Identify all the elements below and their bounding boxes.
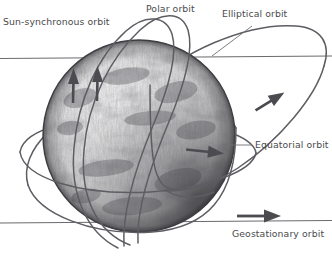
orbit-diagram: Sun-synchronous orbit Polar orbit Ellipt… xyxy=(0,0,332,257)
earth-globe xyxy=(43,40,235,232)
label-geostationary-orbit: Geostationary orbit xyxy=(232,228,324,239)
label-sun-synchronous-orbit: Sun-synchronous orbit xyxy=(3,16,110,27)
diagram-canvas: Sun-synchronous orbit Polar orbit Ellipt… xyxy=(0,0,332,257)
elliptical-arrow xyxy=(252,87,287,115)
label-elliptical-orbit: Elliptical orbit xyxy=(222,8,288,19)
label-polar-orbit: Polar orbit xyxy=(146,3,195,14)
label-equatorial-orbit: Equatorial orbit xyxy=(255,139,329,150)
